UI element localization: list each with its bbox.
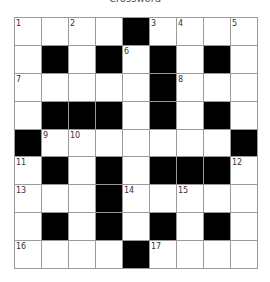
grid-cell[interactable]: 3 bbox=[150, 18, 176, 45]
grid-cell[interactable] bbox=[42, 74, 68, 101]
grid-cell[interactable] bbox=[231, 74, 257, 101]
black-square bbox=[15, 130, 41, 157]
black-square bbox=[150, 46, 176, 73]
clue-number: 17 bbox=[151, 242, 161, 251]
grid-cell[interactable] bbox=[69, 213, 95, 240]
black-square bbox=[123, 18, 149, 45]
black-square bbox=[69, 102, 95, 129]
grid-cell[interactable] bbox=[177, 130, 203, 157]
clue-number: 2 bbox=[70, 19, 75, 28]
clue-number: 15 bbox=[178, 186, 188, 195]
black-square bbox=[177, 157, 203, 184]
clue-number: 1 bbox=[16, 19, 21, 28]
grid-cell[interactable] bbox=[150, 185, 176, 212]
grid-cell[interactable] bbox=[69, 74, 95, 101]
black-square bbox=[42, 46, 68, 73]
grid-cell[interactable] bbox=[177, 46, 203, 73]
grid-cell[interactable] bbox=[42, 241, 68, 268]
puzzle-title: Crossword bbox=[0, 0, 270, 5]
grid-cell[interactable] bbox=[15, 213, 41, 240]
black-square bbox=[42, 157, 68, 184]
grid-cell[interactable]: 11 bbox=[15, 157, 41, 184]
clue-number: 11 bbox=[16, 158, 26, 167]
grid-cell[interactable] bbox=[123, 102, 149, 129]
grid-cell[interactable]: 15 bbox=[177, 185, 203, 212]
grid-cell[interactable]: 6 bbox=[123, 46, 149, 73]
grid-cell[interactable]: 8 bbox=[177, 74, 203, 101]
grid-cell[interactable] bbox=[42, 185, 68, 212]
grid-cell[interactable] bbox=[123, 74, 149, 101]
black-square bbox=[123, 241, 149, 268]
grid-cell[interactable] bbox=[69, 241, 95, 268]
black-square bbox=[204, 46, 230, 73]
clue-number: 7 bbox=[16, 75, 21, 84]
grid-cell[interactable] bbox=[96, 130, 122, 157]
grid-cell[interactable] bbox=[231, 213, 257, 240]
grid-cell[interactable]: 14 bbox=[123, 185, 149, 212]
grid-cell[interactable]: 9 bbox=[42, 130, 68, 157]
grid-cell[interactable] bbox=[204, 74, 230, 101]
grid-cell[interactable] bbox=[123, 130, 149, 157]
black-square bbox=[96, 102, 122, 129]
grid-cell[interactable] bbox=[123, 157, 149, 184]
black-square bbox=[96, 185, 122, 212]
grid-cell[interactable] bbox=[231, 185, 257, 212]
black-square bbox=[204, 102, 230, 129]
grid-cell[interactable] bbox=[231, 241, 257, 268]
black-square bbox=[42, 213, 68, 240]
clue-number: 10 bbox=[70, 131, 80, 140]
grid-cell[interactable] bbox=[15, 46, 41, 73]
clue-number: 3 bbox=[151, 19, 156, 28]
grid-cell[interactable] bbox=[204, 241, 230, 268]
grid-cell[interactable]: 4 bbox=[177, 18, 203, 45]
crossword-grid: 1234567891011121314151617 bbox=[14, 17, 258, 269]
grid-cell[interactable] bbox=[150, 130, 176, 157]
black-square bbox=[96, 157, 122, 184]
grid-cell[interactable]: 2 bbox=[69, 18, 95, 45]
grid-cell[interactable] bbox=[42, 18, 68, 45]
black-square bbox=[150, 102, 176, 129]
black-square bbox=[42, 102, 68, 129]
clue-number: 5 bbox=[232, 19, 237, 28]
clue-number: 16 bbox=[16, 242, 26, 251]
black-square bbox=[96, 213, 122, 240]
grid-cell[interactable]: 17 bbox=[150, 241, 176, 268]
clue-number: 6 bbox=[124, 47, 129, 56]
clue-number: 8 bbox=[178, 75, 183, 84]
grid-cell[interactable] bbox=[177, 102, 203, 129]
grid-cell[interactable] bbox=[15, 102, 41, 129]
black-square bbox=[231, 130, 257, 157]
grid-cell[interactable]: 13 bbox=[15, 185, 41, 212]
grid-cell[interactable] bbox=[123, 213, 149, 240]
grid-cell[interactable]: 5 bbox=[231, 18, 257, 45]
grid-cell[interactable] bbox=[96, 74, 122, 101]
black-square bbox=[150, 157, 176, 184]
clue-number: 9 bbox=[43, 131, 48, 140]
grid-cell[interactable] bbox=[177, 241, 203, 268]
grid-cell[interactable]: 16 bbox=[15, 241, 41, 268]
grid-cell[interactable] bbox=[177, 213, 203, 240]
grid-cell[interactable]: 12 bbox=[231, 157, 257, 184]
grid-cell[interactable]: 1 bbox=[15, 18, 41, 45]
black-square bbox=[204, 213, 230, 240]
clue-number: 4 bbox=[178, 19, 183, 28]
grid-cell[interactable] bbox=[69, 157, 95, 184]
grid-cell[interactable] bbox=[96, 18, 122, 45]
black-square bbox=[204, 157, 230, 184]
clue-number: 14 bbox=[124, 186, 134, 195]
grid-cell[interactable]: 10 bbox=[69, 130, 95, 157]
grid-cell[interactable] bbox=[204, 130, 230, 157]
grid-cell[interactable] bbox=[69, 46, 95, 73]
grid-cell[interactable]: 7 bbox=[15, 74, 41, 101]
grid-cell[interactable] bbox=[231, 102, 257, 129]
grid-cell[interactable] bbox=[204, 18, 230, 45]
grid-cell[interactable] bbox=[231, 46, 257, 73]
grid-cell[interactable] bbox=[204, 185, 230, 212]
black-square bbox=[150, 213, 176, 240]
clue-number: 13 bbox=[16, 186, 26, 195]
grid-cell[interactable] bbox=[69, 185, 95, 212]
clue-number: 12 bbox=[232, 158, 242, 167]
grid-cell[interactable] bbox=[96, 241, 122, 268]
black-square bbox=[96, 46, 122, 73]
black-square bbox=[150, 74, 176, 101]
